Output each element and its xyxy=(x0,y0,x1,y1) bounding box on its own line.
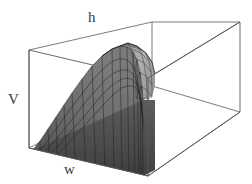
plot-canvas xyxy=(0,0,252,184)
box-edge-back-bottom xyxy=(152,86,240,112)
surface-foot-line xyxy=(31,149,39,173)
axis-label-h: h xyxy=(88,10,96,25)
axis-label-v: V xyxy=(8,92,19,107)
surface-body xyxy=(31,43,155,176)
box-edge-right-top-overlay xyxy=(148,22,240,78)
surface-plot-figure: h V w xyxy=(0,0,252,184)
axis-label-w: w xyxy=(64,162,75,177)
box-edge-right-bottom-overlay xyxy=(148,112,240,176)
